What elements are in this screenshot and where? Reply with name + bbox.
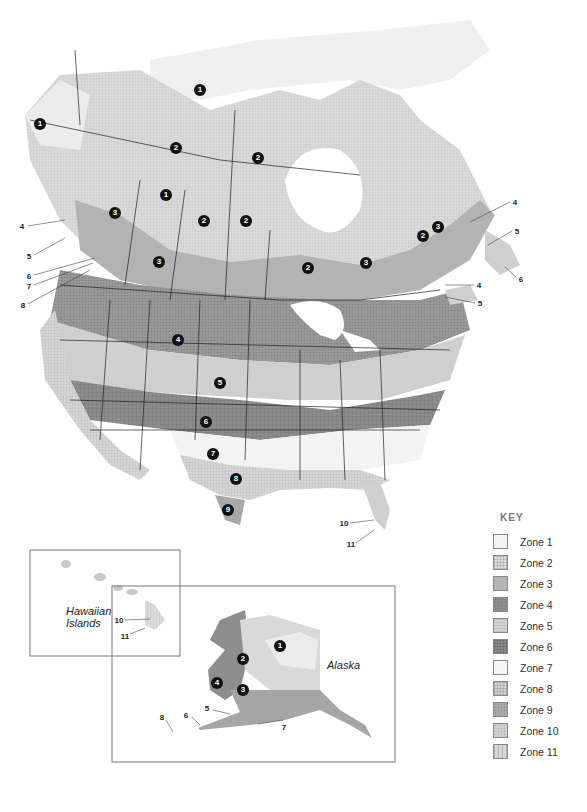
legend-label: Zone 1 xyxy=(520,536,553,548)
alaska-callout-5: 5 xyxy=(205,704,209,713)
zone-marker: 2 xyxy=(252,152,264,164)
zone-callout: 6 xyxy=(519,275,523,284)
hawaii-label: Hawaiian Islands xyxy=(66,605,111,629)
alaska-label: Alaska xyxy=(327,659,360,671)
legend-item: Zone 10 xyxy=(493,720,583,741)
legend-label: Zone 10 xyxy=(520,725,559,737)
zone-marker: 9 xyxy=(222,504,234,516)
florida xyxy=(360,480,390,530)
zone-callout: 5 xyxy=(27,252,31,261)
legend-swatch xyxy=(493,576,508,591)
legend-item: Zone 6 xyxy=(493,636,583,657)
alaska-zone-marker-1: 1 xyxy=(274,640,286,652)
legend-label: Zone 7 xyxy=(520,662,553,674)
alaska-zone-marker-2: 2 xyxy=(237,653,249,665)
hawaii-label-line2: Islands xyxy=(66,617,111,629)
legend-label: Zone 11 xyxy=(520,746,558,758)
zone-marker: 4 xyxy=(172,334,184,346)
zone-marker: 1 xyxy=(194,84,206,96)
legend-label: Zone 2 xyxy=(520,557,553,569)
zone-marker: 7 xyxy=(207,448,219,460)
legend-item: Zone 8 xyxy=(493,678,583,699)
zone-marker: 2 xyxy=(302,262,314,274)
alaska-callout-8: 8 xyxy=(160,713,164,722)
legend-label: Zone 9 xyxy=(520,704,553,716)
zone-callout: 5 xyxy=(478,299,482,308)
legend-item: Zone 1 xyxy=(493,531,583,552)
zone-marker: 1 xyxy=(160,189,172,201)
zone-marker: 6 xyxy=(200,416,212,428)
legend-item: Zone 11 xyxy=(493,741,583,762)
zone-marker: 3 xyxy=(109,207,121,219)
legend-swatch xyxy=(493,534,508,549)
legend-items: Zone 1Zone 2Zone 3Zone 4Zone 5Zone 6Zone… xyxy=(493,531,583,762)
zone-marker: 3 xyxy=(153,256,165,268)
alaska-callout-6: 6 xyxy=(184,711,188,720)
zone-callout: 7 xyxy=(27,282,31,291)
legend-swatch xyxy=(493,555,508,570)
alaska-zone-marker-3: 3 xyxy=(237,684,249,696)
zone-callout: 4 xyxy=(477,281,481,290)
legend-label: Zone 8 xyxy=(520,683,553,695)
alaska-zone-marker-4: 4 xyxy=(211,677,223,689)
hawaii-callout-10: 10 xyxy=(115,616,124,625)
zone-callout: 4 xyxy=(20,222,24,231)
legend-item: Zone 3 xyxy=(493,573,583,594)
zone-marker: 1 xyxy=(34,118,46,130)
zone-marker: 2 xyxy=(198,215,210,227)
legend: KEY Zone 1Zone 2Zone 3Zone 4Zone 5Zone 6… xyxy=(493,512,583,762)
legend-swatch xyxy=(493,681,508,696)
legend-label: Zone 6 xyxy=(520,641,553,653)
legend-swatch xyxy=(493,639,508,654)
legend-label: Zone 3 xyxy=(520,578,553,590)
hawaii-label-line1: Hawaiian xyxy=(66,605,111,617)
zone-marker: 5 xyxy=(214,377,226,389)
legend-swatch xyxy=(493,660,508,675)
zone-callout: 8 xyxy=(21,301,25,310)
legend-swatch xyxy=(493,702,508,717)
legend-item: Zone 7 xyxy=(493,657,583,678)
legend-item: Zone 4 xyxy=(493,594,583,615)
hawaii-callout-11: 11 xyxy=(121,632,129,641)
zone-callout: 5 xyxy=(515,227,519,236)
zone-marker: 8 xyxy=(230,473,242,485)
zone-callout: 11 xyxy=(347,540,355,549)
legend-item: Zone 2 xyxy=(493,552,583,573)
legend-swatch xyxy=(493,618,508,633)
legend-swatch xyxy=(493,744,508,759)
zone-callout: 4 xyxy=(513,198,517,207)
hawaii-inset-frame xyxy=(30,550,180,656)
nova-scotia xyxy=(445,285,478,305)
zone-marker: 2 xyxy=(417,230,429,242)
legend-label: Zone 5 xyxy=(520,620,553,632)
legend-title: KEY xyxy=(500,512,583,523)
zone-marker: 2 xyxy=(240,215,252,227)
legend-swatch xyxy=(493,597,508,612)
alaska-callout-7: 7 xyxy=(282,723,286,732)
legend-item: Zone 5 xyxy=(493,615,583,636)
legend-swatch xyxy=(493,723,508,738)
zone-marker: 2 xyxy=(170,142,182,154)
zone-marker: 3 xyxy=(432,221,444,233)
zone-callout: 10 xyxy=(340,519,349,528)
legend-label: Zone 4 xyxy=(520,599,553,611)
legend-item: Zone 9 xyxy=(493,699,583,720)
zone-marker: 3 xyxy=(360,257,372,269)
zone-callout: 6 xyxy=(27,272,31,281)
